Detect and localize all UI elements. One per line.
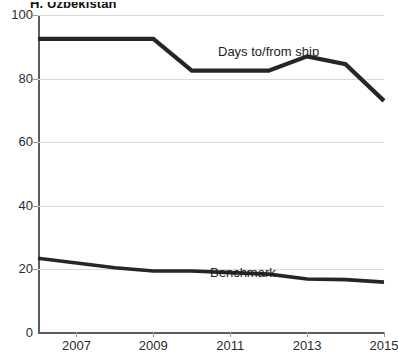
x-axis-tick — [384, 332, 385, 337]
y-axis-tick-label: 20 — [0, 262, 33, 275]
y-axis-tick-label: 0 — [0, 326, 33, 339]
x-axis-tick — [307, 332, 308, 337]
series-annotation-days-to-from-ship: Days to/from ship — [218, 44, 319, 59]
series-annotation-benchmark: Benchmark — [210, 265, 276, 280]
y-axis-tick-label: 80 — [0, 72, 33, 85]
plot-area: Days to/from ship Benchmark — [38, 15, 384, 333]
y-axis-tick-label: 40 — [0, 199, 33, 212]
x-axis-tick-label: 2011 — [216, 338, 244, 353]
x-axis-tick-label: 2007 — [62, 338, 91, 353]
x-axis-tick-label: 2013 — [293, 338, 322, 353]
x-axis-tick — [153, 332, 154, 337]
x-axis-tick — [230, 332, 231, 337]
series-group — [38, 15, 384, 333]
x-axis-tick-label: 2015 — [370, 338, 398, 353]
x-axis-tick-label: 2009 — [139, 338, 168, 353]
y-axis-tick-label: 100 — [0, 8, 33, 21]
y-axis-tick-label: 60 — [0, 135, 33, 148]
x-axis-tick — [76, 332, 77, 337]
series-line-days-to-from-ship — [38, 39, 384, 101]
